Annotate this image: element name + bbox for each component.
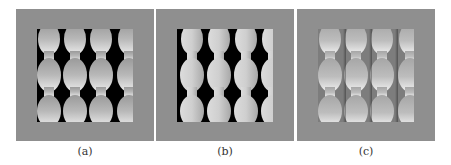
caption-a: (a): [55, 145, 115, 158]
panel-a-image: [37, 29, 133, 122]
panel-c-image: [318, 29, 414, 122]
panel-b: [156, 9, 294, 141]
panel-a: [16, 9, 154, 141]
panel-b-image: [177, 29, 273, 122]
panel-c: [297, 9, 435, 141]
caption-b: (b): [195, 145, 255, 158]
caption-c: (c): [336, 145, 396, 158]
